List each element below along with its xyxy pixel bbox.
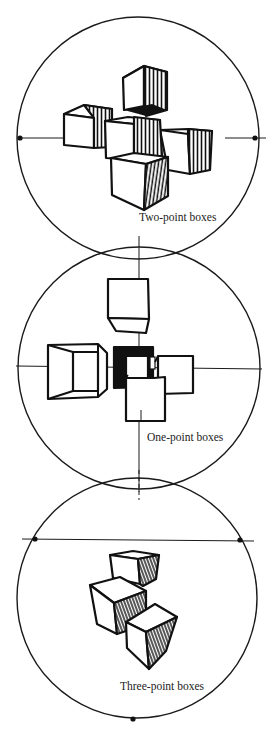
vanishing-point-right bbox=[252, 135, 257, 140]
three-point-panel: Three-point boxes bbox=[17, 470, 257, 722]
box-above bbox=[108, 279, 149, 333]
box-front bbox=[126, 375, 165, 421]
panel-label-three-point: Three-point boxes bbox=[120, 680, 205, 693]
one-point-panel: One-point boxes bbox=[16, 236, 262, 492]
box-top bbox=[123, 66, 167, 116]
horizon-line bbox=[22, 539, 254, 541]
vanishing-point-bottom bbox=[130, 716, 135, 721]
panel-label-one-point: One-point boxes bbox=[147, 431, 224, 444]
vanishing-point-left bbox=[32, 536, 37, 541]
vanishing-point-left bbox=[17, 135, 22, 140]
box-front bbox=[111, 153, 168, 210]
box-left bbox=[48, 344, 107, 399]
panel-label-two-point: Two-point boxes bbox=[139, 211, 217, 224]
two-point-panel: Two-point boxes bbox=[17, 17, 266, 259]
vanishing-point-right bbox=[237, 537, 242, 542]
perspective-boxes-diagram: Two-point boxes bbox=[0, 0, 277, 730]
